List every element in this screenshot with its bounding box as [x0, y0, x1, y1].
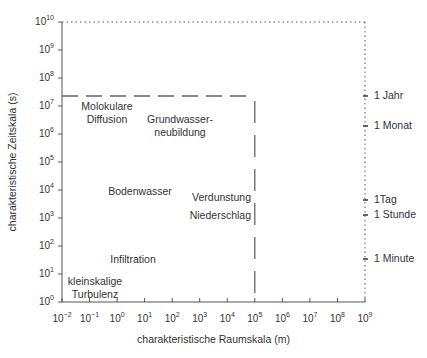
y-tick-label: 1010	[14, 14, 54, 27]
marker-label-hour: 1 Stunde	[374, 208, 416, 220]
annotation-small-scale-turbulence: kleinskalige Turbulenz	[62, 275, 128, 301]
annotation-line: Diffusion	[74, 113, 140, 126]
annotation-infiltration: Infiltration	[100, 253, 166, 266]
y-tick-label: 104	[14, 182, 54, 195]
x-tick-label: 105	[240, 311, 270, 324]
y-tick-label: 100	[14, 294, 54, 307]
y-tick-label: 107	[14, 98, 54, 111]
marker-label-day: 1Tag	[374, 193, 397, 205]
annotation-molecular-diffusion: Molokulare Diffusion	[74, 100, 140, 126]
marker-label-month: 1 Monat	[374, 119, 412, 131]
x-tick-label: 104	[212, 311, 242, 324]
scale-diagram	[0, 0, 427, 358]
x-tick-label: 109	[350, 311, 380, 324]
y-tick-label: 103	[14, 210, 54, 223]
y-tick-label: 108	[14, 70, 54, 83]
x-tick-label: 100	[102, 311, 132, 324]
x-tick-label: 107	[295, 311, 325, 324]
marker-label-year: 1 Jahr	[374, 89, 403, 101]
x-tick-label: 10−2	[47, 311, 77, 324]
x-tick-label: 103	[185, 311, 215, 324]
x-axis-title: charakteristische Raumskala (m)	[62, 333, 365, 345]
y-tick-label: 105	[14, 154, 54, 167]
y-tick-label: 109	[14, 42, 54, 55]
annotation-soil-water: Bodenwasser	[100, 185, 180, 198]
annotation-line: Molokulare	[74, 100, 140, 113]
x-tick-label: 106	[267, 311, 297, 324]
annotation-groundwater-recharge: Grundwasser- neubildung	[140, 113, 220, 139]
x-tick-label: 108	[323, 311, 353, 324]
marker-label-minute: 1 Minute	[374, 252, 414, 264]
x-tick-label: 102	[157, 311, 187, 324]
annotation-evaporation: Verdunstung	[185, 191, 251, 204]
annotation-line: Turbulenz	[62, 288, 128, 301]
annotation-line: kleinskalige	[62, 275, 128, 288]
annotation-line: neubildung	[140, 126, 220, 139]
y-tick-label: 106	[14, 126, 54, 139]
y-axis-title: charakteristische Zeitskala (s)	[6, 22, 18, 302]
y-ticks	[58, 22, 62, 302]
y-tick-label: 102	[14, 238, 54, 251]
y-tick-label: 101	[14, 266, 54, 279]
x-tick-label: 10−1	[75, 311, 105, 324]
x-tick-label: 101	[130, 311, 160, 324]
annotation-precipitation: Niederschlag	[183, 209, 251, 222]
annotation-line: Grundwasser-	[140, 113, 220, 126]
